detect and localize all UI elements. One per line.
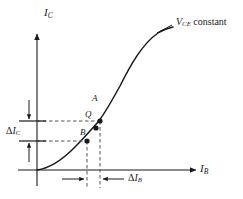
point-marker-a (97, 118, 102, 123)
x-axis-label: IB (200, 163, 208, 175)
figure-canvas: IC IB VCE constant ΔIC ΔIB A Q B (0, 0, 243, 199)
point-marker-q (93, 125, 98, 130)
point-label-a: A (92, 94, 98, 103)
delta-ib-label: ΔIB (128, 173, 142, 184)
delta-ic-arrows (19, 100, 46, 162)
point-label-q: Q (85, 110, 92, 119)
point-marker-b (84, 138, 89, 143)
annotation-leader-line (157, 25, 172, 33)
transfer-curve (37, 27, 173, 170)
delta-ic-label: ΔIC (6, 126, 20, 137)
y-axis-label: IC (44, 7, 53, 19)
vce-constant-annotation: VCE constant (176, 17, 227, 28)
point-label-b: B (80, 128, 86, 137)
